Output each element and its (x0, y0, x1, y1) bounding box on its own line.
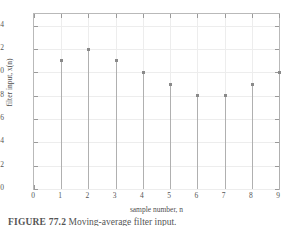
x-axis-tick (170, 14, 171, 18)
x-axis-tick-label: 8 (243, 192, 259, 200)
gridline-horizontal (34, 142, 279, 143)
y-axis-tick-label: 0 (0, 184, 4, 192)
y-axis-tick (34, 119, 38, 120)
x-axis-tick (88, 14, 89, 18)
x-axis-tick-label: 3 (107, 192, 123, 200)
y-axis-tick (34, 166, 38, 167)
stem-line (197, 96, 198, 189)
x-axis-tick (279, 14, 280, 18)
stem-line (252, 84, 253, 189)
x-axis-tick-label: 1 (52, 192, 68, 200)
stem-line (143, 72, 144, 189)
stem-line (225, 96, 226, 189)
gridline-horizontal (34, 96, 279, 97)
stem-line (170, 84, 171, 189)
gridline-horizontal (34, 166, 279, 167)
y-axis-tick (34, 96, 38, 97)
x-axis-tick-label: 5 (161, 192, 177, 200)
x-axis-tick-label: 7 (216, 192, 232, 200)
y-axis-tick-label: 2 (0, 161, 4, 169)
gridline-horizontal (34, 72, 279, 73)
x-axis-tick-label: 0 (25, 192, 41, 200)
data-point-marker (251, 83, 254, 86)
x-axis-tick-label: 6 (188, 192, 204, 200)
y-axis-tick (34, 142, 38, 143)
y-axis-tick-label: 8 (0, 91, 4, 99)
data-point-marker (224, 94, 227, 97)
gridline-horizontal (34, 189, 279, 190)
data-point-marker (196, 94, 199, 97)
y-axis-tick (275, 49, 279, 50)
y-axis-tick-label: 10 (0, 67, 4, 75)
x-axis-tick (116, 14, 117, 18)
x-axis-tick (61, 14, 62, 18)
y-axis-title: filter input, x(n) (5, 28, 14, 138)
figure-caption: FIGURE 77.2 Moving-average filter input. (8, 217, 282, 226)
y-axis-tick-label: 6 (0, 114, 4, 122)
figure-caption-text: Moving-average filter input. (69, 217, 177, 226)
x-axis-tick-label: 4 (134, 192, 150, 200)
y-axis-tick (34, 49, 38, 50)
y-axis-tick (275, 189, 279, 190)
x-axis-tick (225, 14, 226, 18)
figure-container: 02468101214 0123456789 filter input, x(n… (0, 0, 288, 226)
y-axis-tick-label: 14 (0, 21, 4, 29)
x-axis-title: sample number, n (33, 205, 280, 214)
y-axis-tick (275, 26, 279, 27)
data-point-marker (87, 48, 90, 51)
stem-line (88, 49, 89, 189)
figure-caption-label: FIGURE 77.2 (8, 217, 66, 226)
y-axis-tick-label: 12 (0, 44, 4, 52)
stem-line (279, 72, 280, 189)
y-axis-tick (34, 72, 38, 73)
gridline-horizontal (34, 49, 279, 50)
y-axis-tick (34, 26, 38, 27)
data-point-marker (60, 59, 63, 62)
x-axis-tick (34, 185, 35, 189)
stem-line (116, 61, 117, 189)
x-axis-tick (143, 14, 144, 18)
x-axis-tick (252, 14, 253, 18)
plot-area (33, 13, 280, 190)
data-point-marker (115, 59, 118, 62)
x-axis-tick (197, 14, 198, 18)
data-point-marker (169, 83, 172, 86)
x-axis-tick-label: 2 (79, 192, 95, 200)
data-point-marker (142, 71, 145, 74)
stem-line (61, 61, 62, 189)
x-axis-tick-label: 9 (270, 192, 286, 200)
y-axis-tick-label: 4 (0, 137, 4, 145)
y-axis-tick (34, 189, 38, 190)
x-axis-tick (34, 14, 35, 18)
gridline-horizontal (34, 119, 279, 120)
gridline-horizontal (34, 26, 279, 27)
data-point-marker (278, 71, 281, 74)
